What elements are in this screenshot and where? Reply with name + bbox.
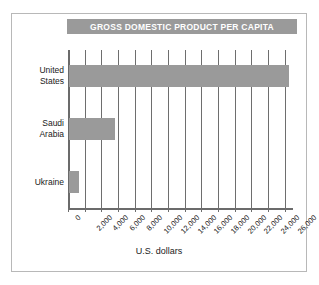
chart-title: GROSS DOMESTIC PRODUCT PER CAPITA — [90, 22, 274, 32]
x-axis-tick — [85, 208, 86, 212]
x-axis-tick — [235, 208, 236, 212]
x-tick-label: 4,000 — [111, 213, 131, 233]
x-axis-tick — [135, 208, 136, 212]
x-axis-tick — [251, 208, 252, 212]
x-tick-label: 0 — [73, 213, 82, 222]
chart-figure: GROSS DOMESTIC PRODUCT PER CAPITA United… — [11, 13, 307, 272]
x-tick-label: 8,000 — [144, 213, 164, 233]
x-axis-tick — [151, 208, 152, 212]
category-label: Ukraine — [22, 177, 64, 188]
bar — [69, 171, 79, 193]
category-label: United States — [22, 65, 64, 86]
bar — [69, 65, 289, 87]
x-axis-tick — [168, 208, 169, 212]
x-axis-tick — [218, 208, 219, 212]
x-axis-tick — [285, 208, 286, 212]
chart-title-banner: GROSS DOMESTIC PRODUCT PER CAPITA — [67, 19, 297, 34]
x-axis-tick — [118, 208, 119, 212]
x-axis-tick — [68, 208, 69, 212]
x-axis-tick — [201, 208, 202, 212]
x-axis-tick — [185, 208, 186, 212]
x-tick-label: 2,000 — [94, 213, 114, 233]
x-tick-label: 6,000 — [128, 213, 148, 233]
category-axis-labels: United StatesSaudi ArabiaUkraine — [20, 50, 64, 208]
bar — [69, 118, 115, 140]
x-axis-tick — [268, 208, 269, 212]
x-axis-tick — [101, 208, 102, 212]
category-label: Saudi Arabia — [22, 118, 64, 139]
x-axis-title: U.S. dollars — [12, 246, 306, 256]
plot-area — [68, 50, 293, 208]
